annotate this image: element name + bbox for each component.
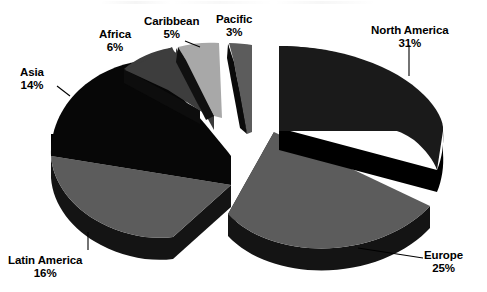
slice-label-latin-america-pct: 16%	[8, 267, 82, 280]
slice-label-pacific-name: Pacific	[216, 13, 252, 25]
slice-label-pacific-pct: 3%	[216, 26, 252, 39]
slice-label-latin-america: Latin America 16%	[8, 254, 82, 279]
slice-label-caribbean-pct: 5%	[144, 28, 199, 41]
slice-label-north-america: North America 31%	[371, 24, 449, 49]
slice-label-europe-name: Europe	[424, 249, 463, 261]
slice-label-north-america-name: North America	[371, 24, 449, 36]
slice-label-africa-name: Africa	[99, 28, 131, 40]
slice-label-asia-pct: 14%	[20, 79, 44, 92]
pie-chart: North America 31% Europe 25% Latin Ameri…	[0, 0, 487, 292]
slice-label-europe-pct: 25%	[424, 262, 463, 275]
slice-label-africa-pct: 6%	[99, 41, 131, 54]
slice-label-africa: Africa 6%	[99, 28, 131, 53]
slice-label-caribbean: Caribbean 5%	[144, 15, 199, 40]
slice-label-asia: Asia 14%	[20, 66, 44, 91]
slice-label-asia-name: Asia	[20, 66, 44, 78]
slice-top-north-america-face	[279, 46, 443, 131]
slice-label-caribbean-name: Caribbean	[144, 15, 199, 27]
slice-label-europe: Europe 25%	[424, 249, 463, 274]
leader-line-asia	[57, 86, 70, 96]
slice-label-north-america-pct: 31%	[371, 37, 449, 50]
slice-label-pacific: Pacific 3%	[216, 13, 252, 38]
slice-label-latin-america-name: Latin America	[8, 254, 82, 266]
